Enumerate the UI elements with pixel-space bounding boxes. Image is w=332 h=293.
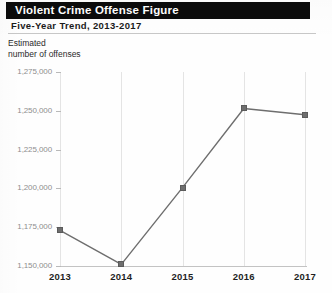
y-tick [56, 266, 61, 267]
gridline-2016 [244, 72, 245, 266]
y-axis-title-line1: Estimated [8, 38, 81, 49]
header-divider [8, 33, 316, 34]
data-point-2014 [118, 261, 124, 267]
y-tick-label: 1,225,000 [0, 145, 52, 154]
x-tick-label-2017: 2017 [283, 271, 327, 282]
data-point-2017 [302, 112, 308, 118]
x-axis-line [60, 266, 307, 267]
y-tick-label: 1,150,000 [0, 261, 52, 270]
y-tick [56, 188, 61, 189]
y-tick [56, 111, 61, 112]
y-axis-title: Estimated number of offenses [8, 38, 81, 59]
data-point-2016 [241, 105, 247, 111]
x-tick-label-2016: 2016 [222, 271, 266, 282]
x-tick-label-2013: 2013 [38, 271, 82, 282]
data-point-2015 [180, 185, 186, 191]
figure-subtitle: Five-Year Trend, 2013-2017 [11, 20, 142, 31]
y-tick-label: 1,250,000 [0, 106, 52, 115]
gridline-2015 [183, 72, 184, 266]
data-point-2013 [57, 227, 63, 233]
x-tick-label-2015: 2015 [161, 271, 205, 282]
gridline-2013 [60, 72, 61, 266]
y-tick [56, 150, 61, 151]
y-tick-label: 1,175,000 [0, 222, 52, 231]
title-bar: Violent Crime Offense Figure [6, 2, 310, 19]
x-tick-label-2014: 2014 [99, 271, 143, 282]
y-tick [56, 72, 61, 73]
y-tick-label: 1,275,000 [0, 67, 52, 76]
page-title: Violent Crime Offense Figure [15, 4, 179, 17]
y-tick-label: 1,200,000 [0, 183, 52, 192]
y-axis-title-line2: number of offenses [8, 49, 81, 60]
gridline-2014 [121, 72, 122, 266]
figure-page: Violent Crime Offense Figure Five-Year T… [0, 0, 332, 293]
gridline-2017 [305, 72, 306, 266]
plot-area [60, 72, 306, 266]
